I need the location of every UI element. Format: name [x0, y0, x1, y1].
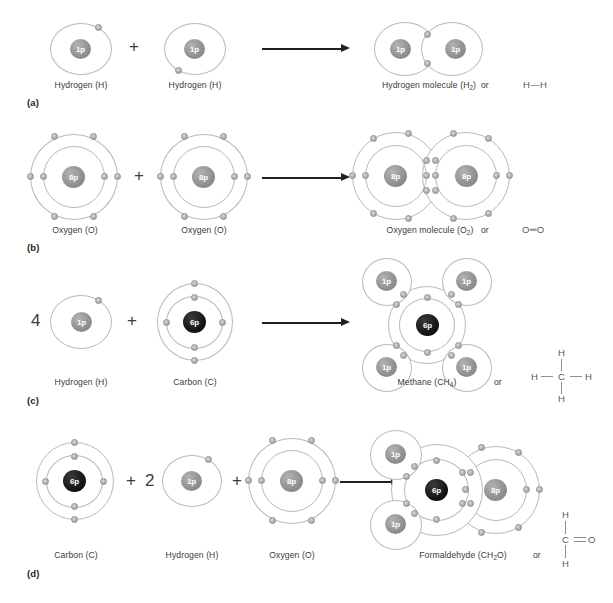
label-formaldehyde-molecule: Formaldehyde (CH2O)	[388, 550, 538, 560]
label-carbon-d: Carbon (C)	[36, 550, 116, 560]
panel-b-oxygen: 8p + 8p 8p 8p	[0, 120, 613, 250]
label-hydrogen-c: Hydrogen (H)	[41, 377, 121, 387]
shared-electron-co	[467, 500, 474, 507]
outer-electron	[332, 477, 339, 484]
nucleus-1p-top: 1p	[385, 444, 406, 464]
label-text: Formaldehyde (CH	[419, 550, 493, 560]
outer-electron-top-inner	[191, 294, 198, 301]
label-text-end: O)	[497, 550, 507, 560]
outer-electron	[220, 133, 227, 140]
structural-formula-methane: H H C H H	[529, 348, 599, 404]
nucleus-8p-right: 8p	[455, 165, 478, 187]
shared-electron-ch-top2	[403, 473, 410, 480]
inner-electron-right	[231, 173, 238, 180]
bond-vertical-bottom	[565, 545, 566, 558]
formula-atom-h-bottom: H	[562, 559, 569, 569]
outer-electron	[51, 133, 58, 140]
atom-oxygen-d: 8p	[248, 438, 336, 524]
atom-hydrogen-d: 1p	[162, 455, 222, 507]
inner-electron-left	[170, 173, 177, 180]
outer-electron-top	[191, 280, 198, 287]
nucleus-1p-bl: 1p	[376, 357, 397, 377]
label-oxygen-d: Oxygen (O)	[252, 550, 332, 560]
outer-electron	[245, 477, 252, 484]
nucleus-1p: 1p	[184, 39, 205, 59]
outer-electron	[90, 213, 97, 220]
atom-hydrogen-a2: 1p	[164, 23, 226, 75]
nucleus-6p: 6p	[183, 311, 206, 333]
outer-electron	[27, 173, 34, 180]
atom-carbon-d: 6p	[36, 442, 114, 520]
inner-electron-right-in	[432, 172, 439, 179]
operator-plus-1: +	[126, 472, 136, 489]
shared-electron-co	[467, 469, 474, 476]
double-bond-lower	[574, 541, 586, 542]
formula-atom-h-bottom: H	[558, 394, 565, 404]
subscript: 4	[450, 381, 454, 388]
bond-horizontal-right	[570, 376, 582, 377]
or-label-d: or	[533, 550, 541, 560]
label-hydrogen-molecule: Hydrogen molecule (H2)	[341, 80, 517, 90]
formula-atom-c-center: C	[562, 535, 569, 545]
nucleus-6p: 6p	[416, 314, 439, 336]
oxygen-inner-electron-right	[523, 486, 530, 493]
outer-electron	[485, 135, 492, 142]
outer-electron	[181, 133, 188, 140]
outer-electron	[244, 173, 251, 180]
label-oxygen-b2: Oxygen (O)	[164, 225, 244, 235]
outer-electron	[485, 210, 492, 217]
structural-formula-o2: O═O	[522, 224, 544, 235]
shared-electron-bottom	[424, 60, 431, 67]
oxygen-outer-electron	[515, 449, 522, 456]
double-bond-upper	[574, 537, 586, 538]
shared-electron	[432, 157, 439, 164]
panel-d-formaldehyde: 6p + 2 1p + 8p 8p	[0, 420, 613, 603]
shared-electron	[448, 352, 455, 359]
atom-hydrogen-a1: 1p	[50, 23, 112, 75]
shared-electron	[400, 352, 407, 359]
shared-electron-ch-bottom	[411, 510, 418, 517]
nucleus-8p: 8p	[62, 166, 85, 188]
operator-plus: +	[127, 312, 137, 329]
nucleus-8p: 8p	[484, 479, 507, 501]
inner-electron-left-in	[423, 172, 430, 179]
shared-electron	[448, 291, 455, 298]
outer-electron	[90, 133, 97, 140]
carbon-inner-electron-top	[433, 457, 440, 464]
outer-electron	[370, 210, 377, 217]
structural-formula-formaldehyde: H C O H	[556, 510, 612, 570]
oxygen-inner-electron-left	[462, 486, 469, 493]
reaction-arrow	[262, 44, 350, 53]
nucleus-1p: 1p	[181, 471, 202, 491]
atom-carbon-c: 6p	[157, 283, 233, 361]
subscript: 2	[469, 84, 473, 91]
outer-electron	[269, 437, 276, 444]
reaction-arrow	[262, 173, 350, 182]
coefficient-two: 2	[145, 472, 154, 489]
label-carbon-c: Carbon (C)	[155, 377, 235, 387]
bond-vertical-top	[565, 521, 566, 534]
label-hydrogen-a2: Hydrogen (H)	[155, 80, 235, 90]
panel-letter-a: (a)	[27, 97, 39, 108]
atom-hydrogen-c1: 1p	[50, 295, 112, 349]
shared-electron-ch-bottom2	[403, 500, 410, 507]
shared-electron-co	[459, 500, 466, 507]
operator-plus: +	[134, 167, 144, 184]
structural-formula-h2: H—H	[523, 79, 547, 90]
bond-horizontal-left	[541, 376, 553, 377]
shared-electron-ch-top	[411, 463, 418, 470]
outer-electron	[405, 130, 412, 137]
subscript: 2	[493, 554, 497, 561]
outer-electron-bottom	[71, 516, 78, 523]
outer-electron	[157, 173, 164, 180]
carbon-inner-electron-bottom	[424, 349, 431, 356]
electron	[175, 67, 182, 74]
outer-electron	[220, 213, 227, 220]
molecule-oxygen: 8p 8p	[352, 132, 512, 222]
operator-plus-2: +	[232, 472, 242, 489]
outer-electron	[51, 213, 58, 220]
formula-atom-c-center: C	[558, 372, 565, 382]
outer-electron	[506, 172, 513, 179]
inner-electron-right	[493, 172, 500, 179]
label-text: Hydrogen molecule (H	[382, 80, 470, 90]
